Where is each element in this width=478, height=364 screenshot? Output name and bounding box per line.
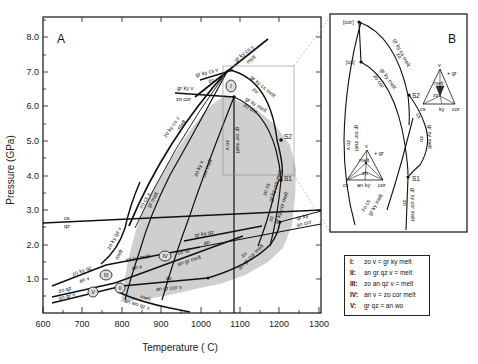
lbl-gr-ky-cs-v-left: gr ky cs v <box>195 66 219 78</box>
lbl-cs: cs <box>64 215 70 221</box>
lbl-b-gr-ky-melt-2: gr ky melt <box>427 125 433 149</box>
y-tick-1: 1.0 <box>26 274 39 284</box>
invariant-label-iv: IV <box>162 253 168 259</box>
invariant-label-v: V <box>91 289 95 295</box>
legend-key: II: <box>350 267 364 278</box>
legend-key: IV: <box>350 289 364 300</box>
tri2-melt: melt <box>434 80 444 86</box>
s1-label-a: S1 <box>284 175 292 182</box>
tri1-top: v <box>365 143 368 149</box>
legend-reaction: zo v = gr ky melt <box>364 258 412 265</box>
invariant-label-ii: II <box>118 285 122 291</box>
tri2-top: v <box>438 62 441 68</box>
lbl-b-gr-cor-melt: gr cor melt <box>354 125 360 151</box>
x-tick-labels: 600 700 800 900 1000 1100 1200 1300 <box>35 319 329 329</box>
lbl-an-v: an v <box>78 275 90 284</box>
invariant-label-iii: III <box>104 272 109 278</box>
panel-b-label: B <box>448 32 456 46</box>
legend-key: V: <box>350 300 364 311</box>
legend-key: III: <box>350 278 364 289</box>
legend-reaction: an gr qz v = melt <box>364 269 412 276</box>
lbl-b-zo-v: zo v <box>346 140 352 150</box>
tri2-cor: cor <box>452 106 460 112</box>
lbl-zo-v: zo v <box>225 140 231 150</box>
lbl-b-cor: [cor] <box>343 19 354 25</box>
tri1-melt: melt <box>359 157 370 163</box>
x-tick-800: 800 <box>114 319 129 329</box>
legend-key: I: <box>350 256 364 267</box>
legend-row-iv: IV:an v = zo cor melt <box>345 289 429 300</box>
s2-label-a: S2 <box>284 133 292 140</box>
lbl-b-gr-ky-cor-melt: gr ky cor melt <box>410 188 416 221</box>
tri2-plus: + gr <box>447 70 457 76</box>
lbl-an: an <box>203 239 210 246</box>
reaction-legend: I:zo v = gr ky melt II:an gr qz v = melt… <box>344 255 430 316</box>
y-tick-4: 4.0 <box>26 171 39 181</box>
legend-reaction: an v = zo cor melt <box>364 291 415 298</box>
tri1-an-ky: an ky <box>357 182 370 188</box>
tri2-ky: ky <box>439 106 445 112</box>
lbl-b-s2: S2 <box>412 92 420 99</box>
lbl-zo-ky-qz-v: zo ky qz v <box>106 226 123 251</box>
tri1-cs: cs <box>343 182 349 188</box>
lbl-b-zo-b: zo <box>419 136 425 142</box>
lbl-b-s1: S1 <box>412 175 420 182</box>
lbl-melt-qz: melt <box>114 248 124 260</box>
x-tick-1000: 1000 <box>191 319 211 329</box>
x-tick-1100: 1100 <box>230 319 249 329</box>
lbl-zo-low: zo <box>166 275 172 281</box>
legend-row-v: V:gr qz = an wo <box>345 300 429 311</box>
tri1-cor: cor <box>378 182 386 188</box>
y-tick-7: 7.0 <box>26 67 39 77</box>
legend-reaction: gr qz = an wo <box>364 302 403 309</box>
y-axis-title: Pressure (GPa) <box>5 135 16 204</box>
y-tick-5: 5.0 <box>26 136 39 146</box>
x-tick-700: 700 <box>74 319 89 329</box>
lbl-b-zo-c: zo <box>402 200 408 206</box>
lbl-b-cs: [cs] <box>346 59 355 65</box>
legend-row-iii: III:zo an qz v = melt <box>345 278 429 289</box>
y-tick-2: 2.0 <box>26 240 39 250</box>
x-tick-900: 900 <box>153 319 168 329</box>
x-tick-1200: 1200 <box>269 319 289 329</box>
tri1-zo: zo <box>362 170 368 176</box>
panel-a-label: A <box>57 32 65 46</box>
y-tick-8: 8.0 <box>26 32 39 42</box>
lbl-gr-ky-v: gr ky v <box>177 85 193 91</box>
legend-row-i: I:zo v = gr ky melt <box>345 256 429 267</box>
lbl-qz: qz <box>64 223 70 229</box>
legend-reaction: zo an qz v = melt <box>364 280 413 287</box>
lbl-zo-cor: zo cor <box>176 96 191 102</box>
x-tick-600: 600 <box>35 319 50 329</box>
tri2-zo: zo <box>433 92 439 98</box>
y-tick-labels: 1.0 2.0 3.0 4.0 5.0 6.0 7.0 8.0 <box>26 32 39 284</box>
x-tick-1300: 1300 <box>309 319 329 329</box>
y-tick-3: 3.0 <box>26 205 39 215</box>
x-axis-title: Temperature ( C) <box>142 342 218 353</box>
legend-row-ii: II:an gr qz v = melt <box>345 267 429 278</box>
y-tick-6: 6.0 <box>26 101 39 111</box>
tri1-plus: + gr <box>374 150 384 156</box>
lbl-gr-cor-melt: gr cor melt <box>235 127 241 153</box>
tri2-cs: cs <box>420 106 426 112</box>
